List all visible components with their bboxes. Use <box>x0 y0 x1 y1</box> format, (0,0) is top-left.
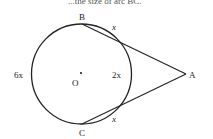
center-point <box>80 72 82 74</box>
secant-ab <box>82 24 186 74</box>
label-major-arc: 6x <box>14 70 24 80</box>
label-c: C <box>79 128 85 138</box>
minor-arc-value: 2x <box>112 70 122 80</box>
truncated-question-text: ...the size of arc BC. <box>68 0 141 6</box>
label-b: B <box>79 12 85 22</box>
label-lower-segment: x <box>111 114 116 124</box>
label-a: A <box>189 70 196 80</box>
label-minor-arc: 2x <box>112 70 122 80</box>
major-arc-value: 6x <box>14 70 24 80</box>
label-upper-segment: x <box>111 22 116 32</box>
secant-ac <box>82 74 186 124</box>
circle-secant-diagram: ...the size of arc BC. B C A O 6x 2x x x <box>0 0 213 139</box>
label-o: O <box>72 78 79 88</box>
